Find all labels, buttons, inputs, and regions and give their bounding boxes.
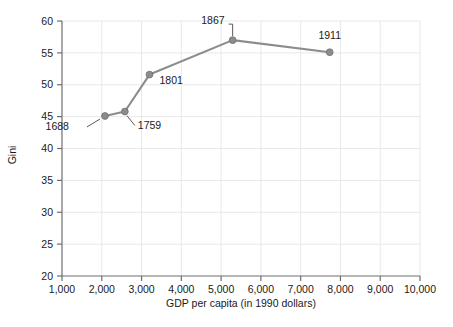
x-axis-tick-label: 2,000: [89, 283, 115, 295]
data-point-marker: [326, 49, 333, 56]
data-point-label: 1911: [318, 29, 341, 41]
data-point-label: 1759: [138, 119, 162, 131]
y-axis-tick-label: 60: [41, 15, 53, 27]
x-axis-tick-label: 3,000: [128, 283, 154, 295]
x-axis-title: GDP per capita (in 1990 dollars): [166, 297, 316, 309]
chart-background: [0, 0, 453, 327]
y-axis-tick-label: 20: [41, 270, 53, 282]
y-axis-tick-label: 55: [41, 47, 53, 59]
y-axis-tick-labels: 202530354045505560: [41, 15, 53, 282]
data-point-marker: [102, 113, 109, 120]
y-axis-tick-label: 25: [41, 238, 53, 250]
data-point-label: 1801: [160, 74, 184, 86]
y-axis-title: Gini: [6, 146, 18, 165]
gini-gdp-scatter-line-chart: 202530354045505560 1,0002,0003,0004,0005…: [0, 0, 453, 327]
data-point-label: 1867: [201, 14, 225, 26]
x-axis-tick-label: 9,000: [367, 283, 393, 295]
x-axis-tick-label: 8,000: [327, 283, 353, 295]
x-axis-tick-label: 10,000: [404, 283, 436, 295]
chart-figure: 202530354045505560 1,0002,0003,0004,0005…: [0, 0, 453, 327]
x-axis-tick-label: 1,000: [49, 283, 75, 295]
y-axis-tick-label: 35: [41, 174, 53, 186]
y-axis-tick-label: 40: [41, 142, 53, 154]
y-axis-tick-label: 50: [41, 78, 53, 90]
data-point-marker: [146, 71, 153, 78]
x-axis-tick-label: 7,000: [288, 283, 314, 295]
x-axis-tick-label: 5,000: [208, 283, 234, 295]
data-point-label: 1688: [46, 120, 70, 132]
data-point-marker: [121, 108, 128, 115]
y-axis-tick-label: 30: [41, 206, 53, 218]
data-point-marker: [229, 37, 236, 44]
x-axis-tick-label: 6,000: [248, 283, 274, 295]
x-axis-tick-label: 4,000: [168, 283, 194, 295]
